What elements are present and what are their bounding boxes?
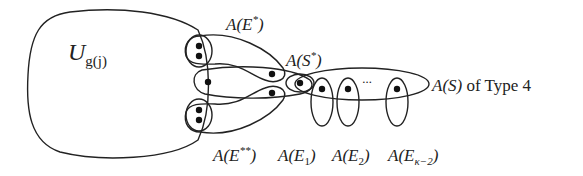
ellipsis: ··· [362, 74, 372, 89]
pair-top [186, 35, 212, 67]
vertex-dot [196, 117, 202, 123]
vertex-dot [394, 86, 400, 92]
vertex-dot [196, 43, 202, 49]
label-s-star: A(S*) [285, 49, 322, 70]
vertex-dot [196, 107, 202, 113]
label-e-star: A(E*) [225, 13, 264, 34]
vertex-dot [297, 80, 303, 86]
edge-e2 [337, 78, 359, 126]
vertex-dot [269, 90, 275, 96]
hypergraph-diagram: Ug(j) A(E*) A(S*) A(S) of Type 4 ··· A(E… [0, 0, 583, 176]
label-ek2: A(Eκ−2) [387, 146, 439, 167]
vertex-dot [319, 86, 325, 92]
vertex-dot [345, 86, 351, 92]
label-e-double-star: A(E**) [212, 144, 256, 165]
label-universe: Ug(j) [68, 39, 107, 70]
vertex-dot [269, 71, 275, 77]
vertex-dot [205, 79, 211, 85]
label-s-type4: A(S) of Type 4 [431, 76, 532, 95]
label-e1: A(E1) [277, 146, 316, 167]
vertex-dot [196, 53, 202, 59]
edge-e1 [311, 78, 333, 126]
label-e2: A(E2) [331, 146, 370, 167]
edge-ek2 [386, 78, 408, 126]
universe-region [28, 10, 209, 158]
